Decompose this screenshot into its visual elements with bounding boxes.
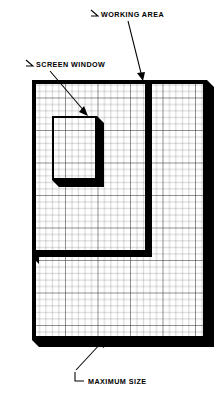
technical-diagram: WORKING AREA SCREEN WINDOW MAXIMUM SIZE [0, 0, 219, 395]
maximum-size-label-tick [75, 372, 84, 381]
working-area-right-edge [145, 80, 152, 257]
annotation-working-area: WORKING AREA [91, 10, 164, 81]
working-area-label: WORKING AREA [101, 10, 164, 19]
screen-window-label-tick [26, 60, 33, 66]
working-area-arrowhead-icon [137, 72, 145, 81]
maximum-size-label: MAXIMUM SIZE [88, 377, 147, 386]
working-area-label-tick [91, 10, 98, 16]
working-area-bottom-edge [32, 250, 152, 257]
diagram-canvas: WORKING AREA SCREEN WINDOW MAXIMUM SIZE [0, 0, 219, 395]
screen-window-panel [52, 116, 104, 187]
screen-window-surface [52, 116, 97, 180]
working-area-leader-line [128, 21, 142, 77]
screen-window-label: SCREEN WINDOW [36, 60, 105, 69]
